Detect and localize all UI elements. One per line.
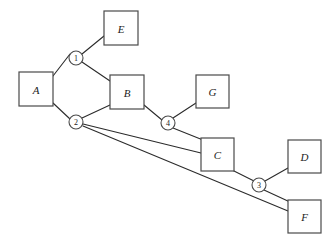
edge-3-d — [265, 168, 288, 181]
edge-a-1 — [53, 54, 70, 76]
edge-4-c — [173, 128, 203, 140]
box-node-b[interactable]: B — [110, 75, 144, 109]
box-label-d: D — [300, 151, 309, 163]
box-node-e[interactable]: E — [104, 11, 138, 45]
circle-node-1[interactable]: 1 — [69, 51, 83, 65]
box-node-f[interactable]: F — [288, 200, 321, 233]
box-label-a: A — [32, 84, 40, 96]
box-label-f: F — [300, 211, 308, 223]
box-label-c: C — [214, 149, 222, 161]
box-node-a[interactable]: A — [19, 72, 53, 106]
edge-2-b — [82, 105, 110, 118]
circle-node-3[interactable]: 3 — [252, 178, 266, 192]
edge-b-4 — [144, 105, 162, 120]
edge-2-f — [83, 126, 288, 211]
edge-1-e — [82, 36, 104, 54]
box-label-g: G — [209, 86, 217, 98]
box-node-g[interactable]: G — [196, 75, 229, 108]
diagram-canvas: EABGCDF 1234 — [0, 0, 335, 245]
box-label-b: B — [124, 87, 131, 99]
circle-label-1: 1 — [74, 54, 78, 63]
circle-label-2: 2 — [74, 118, 78, 127]
edge-4-g — [173, 103, 196, 118]
circle-node-2[interactable]: 2 — [69, 115, 83, 129]
edge-a-2 — [53, 103, 70, 119]
box-label-e: E — [117, 23, 125, 35]
box-node-d[interactable]: D — [288, 140, 321, 173]
edge-2-c — [83, 124, 201, 153]
circle-label-4: 4 — [166, 119, 170, 128]
circle-node-4[interactable]: 4 — [161, 116, 175, 130]
box-node-c[interactable]: C — [201, 138, 234, 171]
node-link-graph: EABGCDF 1234 — [0, 0, 335, 245]
circle-label-3: 3 — [257, 181, 261, 190]
circle-node-layer: 1234 — [69, 51, 266, 192]
edge-3-f — [264, 190, 290, 202]
edge-1-b — [82, 62, 110, 81]
